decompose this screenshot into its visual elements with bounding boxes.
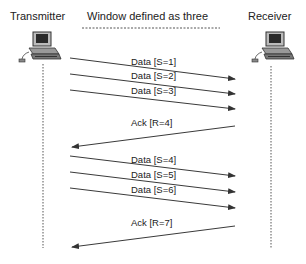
ack-arrow bbox=[72, 226, 235, 247]
transmitter-computer-icon bbox=[19, 32, 61, 62]
message-label: Data [S=6] bbox=[131, 184, 176, 195]
receiver-label: Receiver bbox=[248, 10, 291, 22]
message-label: Data [S=2] bbox=[131, 70, 176, 81]
caption-label: Window defined as three bbox=[87, 10, 208, 22]
message-label: Data [S=3] bbox=[131, 85, 176, 96]
message-label: Ack [R=4] bbox=[131, 117, 172, 128]
ack-arrow bbox=[72, 126, 235, 147]
message-label: Ack [R=7] bbox=[131, 217, 172, 228]
message-label: Data [S=4] bbox=[131, 154, 176, 165]
receiver-computer-icon bbox=[252, 32, 294, 62]
message-label: Data [S=1] bbox=[131, 56, 176, 67]
message-label: Data [S=5] bbox=[131, 169, 176, 180]
transmitter-label: Transmitter bbox=[10, 10, 65, 22]
